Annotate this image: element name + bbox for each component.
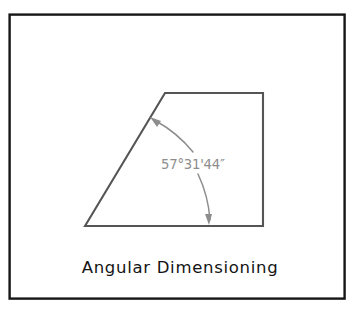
technical-drawing-canvas: 57°31'44″ Angular Dimensioning: [0, 0, 359, 313]
angle-dimension-label: 57°31'44″: [161, 157, 225, 172]
figure-caption: Angular Dimensioning: [82, 258, 279, 277]
angular-dimensioning-figure: 57°31'44″ Angular Dimensioning: [0, 0, 359, 313]
